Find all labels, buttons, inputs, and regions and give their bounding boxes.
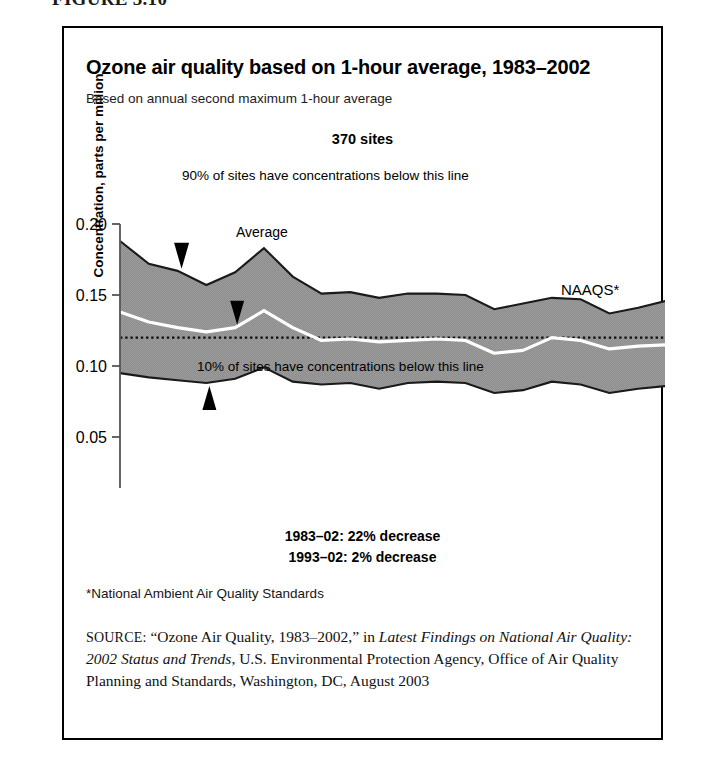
figure-label: FIGURE 3.10 <box>52 0 167 10</box>
trend-note-short: 1993–02: 2% decrease <box>64 549 661 565</box>
y-tick-label: 0.15 <box>76 287 107 304</box>
upper-band-arrow-icon <box>174 243 189 269</box>
annotation-upper-band: 90% of sites have concentrations below t… <box>174 168 469 269</box>
ozone-band-chart: 0.000.050.100.150.20 8384858687888990919… <box>64 158 665 488</box>
chart-title: Ozone air quality based on 1-hour averag… <box>86 56 590 79</box>
naaqs-label: NAAQS* <box>561 281 620 298</box>
source-prefix: SOURCE: <box>86 630 147 645</box>
y-tick-label: 0.05 <box>76 429 107 446</box>
naaqs-footnote: *National Ambient Air Quality Standards <box>86 586 324 601</box>
source-quoted-title: “Ozone Air Quality, 1983–2002,” <box>150 628 359 645</box>
lower-band-annotation-text: 10% of sites have concentrations below t… <box>197 359 484 374</box>
lower-band-arrow-icon <box>202 386 216 410</box>
upper-band-annotation-text: 90% of sites have concentrations below t… <box>182 168 469 183</box>
sites-count-label: 370 sites <box>64 131 661 147</box>
trend-note-long: 1983–02: 22% decrease <box>64 528 661 544</box>
figure-box: Ozone air quality based on 1-hour averag… <box>62 26 663 740</box>
source-note: SOURCE: “Ozone Air Quality, 1983–2002,” … <box>86 626 641 692</box>
figure-inner: Ozone air quality based on 1-hour averag… <box>64 28 661 738</box>
y-tick-label: 0.20 <box>76 216 107 233</box>
y-tick-label: 0.10 <box>76 358 107 375</box>
average-annotation-text: Average <box>236 224 288 240</box>
chart-subtitle: Based on annual second maximum 1-hour av… <box>86 91 392 106</box>
y-tick-labels: 0.000.050.100.150.20 <box>76 216 107 488</box>
chart-plot-area: 0.000.050.100.150.20 8384858687888990919… <box>64 158 665 488</box>
source-connector: in <box>363 628 375 645</box>
